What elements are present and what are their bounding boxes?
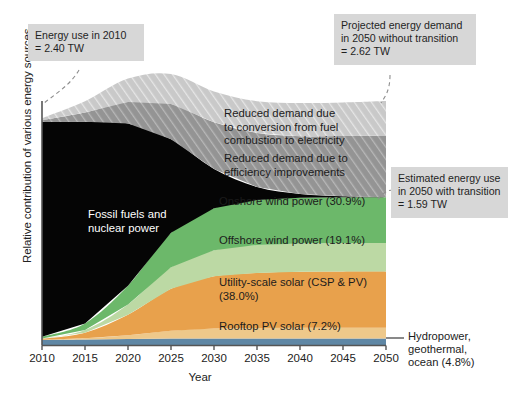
x-axis-tick-label: 2040 xyxy=(280,352,320,364)
area-band xyxy=(42,338,386,345)
y-axis-label: Relative contribution of various energy … xyxy=(21,53,33,263)
callout-projected-demand-2050: Projected energy demand in 2050 without … xyxy=(334,14,476,65)
x-axis-tick-label: 2020 xyxy=(108,352,148,364)
x-axis-tick-label: 2050 xyxy=(366,352,406,364)
band-label-utility-scale-solar: Utility-scale solar (CSP & PV) (38.0%) xyxy=(219,276,394,303)
band-label-fossil-nuclear: Fossil fuels and nuclear power xyxy=(88,208,208,235)
band-label-reduced-efficiency: Reduced demand due to efficiency improve… xyxy=(224,152,389,179)
band-label-hydropower-geothermal-ocean: Hydropower, geothermal, ocean (4.8%) xyxy=(408,330,508,370)
energy-transition-figure: Relative contribution of various energy … xyxy=(0,0,514,399)
x-axis-tick-label: 2035 xyxy=(237,352,277,364)
callout-energy-use-2010: Energy use in 2010 = 2.40 TW xyxy=(28,24,144,61)
band-label-reduced-conversion: Reduced demand due to conversion from fu… xyxy=(224,107,389,148)
band-label-offshore-wind: Offshore wind power (19.1%) xyxy=(219,234,394,248)
x-axis-tick-label: 2025 xyxy=(151,352,191,364)
x-axis-label: Year xyxy=(0,371,400,383)
x-axis-tick-label: 2015 xyxy=(65,352,105,364)
x-axis-tick-label: 2010 xyxy=(22,352,62,364)
band-label-rooftop-pv-solar: Rooftop PV solar (7.2%) xyxy=(219,320,394,334)
callout-estimated-energy-2050: Estimated energy use in 2050 with transi… xyxy=(391,167,508,218)
x-axis-tick-label: 2045 xyxy=(323,352,363,364)
band-label-onshore-wind: Onshore wind power (30.9%) xyxy=(219,195,394,209)
x-axis-tick-label: 2030 xyxy=(194,352,234,364)
